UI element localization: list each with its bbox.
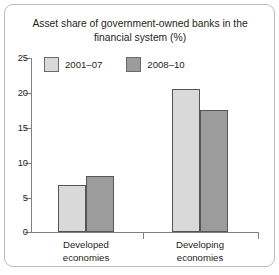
category-label-line-1: Developing (176, 239, 224, 250)
x-axis-category-label-developed: Developed economies (44, 239, 128, 264)
x-axis-tick (143, 233, 144, 239)
y-axis-tick-labels: 25 20 15 10 5 0 (0, 0, 28, 275)
category-label-line-2: economies (177, 252, 223, 263)
bar-developing-economies-2008-10 (200, 110, 228, 232)
x-axis-category-label-developing: Developing economies (158, 239, 242, 264)
x-axis-line (31, 232, 259, 233)
y-axis-tick-label: 20 (6, 88, 28, 98)
bar-developing-economies-2001-07 (172, 89, 200, 232)
bar-developed-economies-2001-07 (58, 185, 86, 232)
category-label-line-1: Developed (63, 239, 109, 250)
y-axis-tick-label: 0 (6, 227, 28, 237)
y-axis-tick-label: 15 (6, 123, 28, 133)
category-label-line-2: economies (63, 252, 109, 263)
y-axis-tick-label: 5 (6, 193, 28, 203)
y-axis-line (31, 58, 32, 233)
y-axis-tick-label: 10 (6, 158, 28, 168)
chart-figure: Asset share of government-owned banks in… (0, 0, 279, 275)
y-axis-tick-label: 25 (6, 53, 28, 63)
bar-developed-economies-2008-10 (86, 176, 114, 232)
plot-area: 25 20 15 10 5 0 Developed economies Deve… (0, 0, 279, 275)
x-axis-tick (258, 233, 259, 239)
